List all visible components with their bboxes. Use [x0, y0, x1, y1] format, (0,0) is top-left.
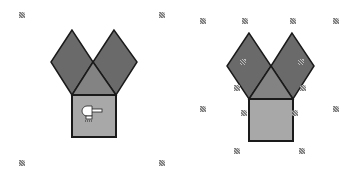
- diagram-canvas[interactable]: [0, 0, 360, 179]
- resize-handle[interactable]: [298, 59, 304, 65]
- left-figure-square[interactable]: [72, 95, 116, 137]
- right-figure-square[interactable]: [249, 99, 293, 141]
- resize-handle[interactable]: [159, 12, 165, 18]
- resize-handle[interactable]: [234, 148, 240, 154]
- resize-handle[interactable]: [240, 59, 246, 65]
- resize-handle[interactable]: [333, 106, 339, 112]
- resize-handle[interactable]: [241, 110, 247, 116]
- resize-handle[interactable]: [234, 85, 240, 91]
- resize-handle[interactable]: [292, 110, 298, 116]
- resize-handle[interactable]: [19, 12, 25, 18]
- resize-handle[interactable]: [299, 148, 305, 154]
- resize-handle[interactable]: [333, 18, 339, 24]
- resize-handle[interactable]: [242, 18, 248, 24]
- resize-handle[interactable]: [300, 85, 306, 91]
- resize-handle[interactable]: [290, 18, 296, 24]
- resize-handle[interactable]: [200, 106, 206, 112]
- left-figure[interactable]: [51, 30, 137, 137]
- resize-handle[interactable]: [200, 18, 206, 24]
- resize-handle[interactable]: [159, 160, 165, 166]
- resize-handle[interactable]: [19, 160, 25, 166]
